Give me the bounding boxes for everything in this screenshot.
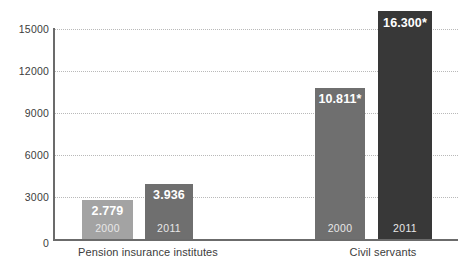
category-label-civil: Civil servants [323,246,443,258]
bar-civil-2011: 16.300* 2011 [378,11,432,239]
y-tick-label-15000: 15000 [5,24,49,35]
category-label-pension: Pension insurance institutes [48,246,248,258]
bar-value-label: 3.936 [145,189,193,202]
y-tick-0: 0 [0,243,49,244]
bar-year-label: 2000 [315,223,365,234]
y-tick-label-12000: 12000 [5,66,49,77]
y-tick-label-9000: 9000 [5,108,49,119]
bar-year-label: 2000 [82,223,133,234]
y-tick-9000: 9000 [0,113,49,114]
y-tick-12000: 12000 [0,71,49,72]
bar-value-label: 2.779 [82,205,133,218]
bar-pension-2000: 2.779 2000 [82,200,133,239]
bar-value-label: 16.300* [378,17,432,30]
y-tick-label-6000: 6000 [5,150,49,161]
y-axis-line [53,28,55,240]
y-tick-3000: 3000 [0,197,49,198]
y-tick-15000: 15000 [0,29,49,30]
y-tick-label-0: 0 [5,238,49,249]
bar-year-label: 2011 [378,223,432,234]
bar-value-label: 10.811* [315,93,365,106]
y-tick-6000: 6000 [0,155,49,156]
x-axis-line [53,239,458,241]
y-tick-label-3000: 3000 [5,192,49,203]
bar-pension-2011: 3.936 2011 [145,184,193,239]
bar-chart: 15000 12000 9000 6000 3000 0 2.779 2000 … [0,0,458,271]
bar-year-label: 2011 [145,223,193,234]
bar-civil-2000: 10.811* 2000 [315,88,365,239]
